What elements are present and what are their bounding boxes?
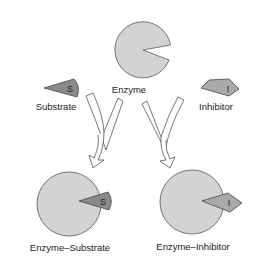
enzyme-inhibition-diagram: Enzyme S Substrate I Inhibitor S Enzyme–… (0, 0, 259, 261)
inhibitor-glyph: I (227, 84, 230, 94)
enzyme-inhibitor-complex: I (160, 170, 242, 234)
inhibitor-shape: I (201, 79, 239, 96)
complex-substrate-glyph: S (100, 197, 106, 207)
enzyme-shape (115, 22, 171, 78)
inhibitor-label: Inhibitor (199, 101, 233, 112)
right-arrow-icon (142, 97, 184, 168)
substrate-shape: S (44, 79, 78, 97)
enzyme-label: Enzyme (112, 84, 146, 95)
enzyme-substrate-complex: S (37, 172, 111, 236)
left-arrow-icon (86, 93, 123, 168)
enzyme-substrate-label: Enzyme–Substrate (30, 242, 110, 253)
substrate-glyph: S (67, 84, 73, 94)
complex-inhibitor-glyph: I (228, 198, 231, 208)
enzyme-inhibitor-label: Enzyme–Inhibitor (156, 241, 229, 252)
substrate-label: Substrate (36, 101, 77, 112)
